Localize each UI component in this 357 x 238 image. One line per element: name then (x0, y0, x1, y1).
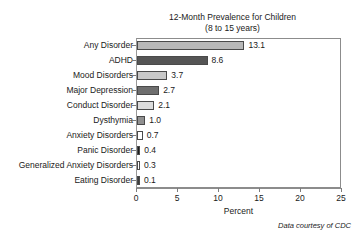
x-axis-tick-label: 0 (124, 193, 148, 203)
bar-value-label: 13.1 (248, 38, 265, 53)
x-axis-tick-label: 20 (288, 193, 312, 203)
y-axis-tick (132, 120, 136, 121)
bar-row: Mood Disorders3.7 (0, 68, 357, 83)
y-axis-tick (132, 165, 136, 166)
x-axis-tick-label: 15 (247, 193, 271, 203)
category-label: Eating Disorder (74, 173, 133, 188)
x-axis-title: Percent (176, 206, 301, 216)
x-axis-tick (259, 188, 260, 192)
category-label: Anxiety Disorders (66, 128, 133, 143)
x-axis-line (136, 188, 341, 189)
bar-value-label: 0.4 (144, 143, 156, 158)
bar (137, 71, 167, 80)
y-axis-tick (132, 135, 136, 136)
y-axis-tick (132, 60, 136, 61)
x-axis-tick-label: 10 (206, 193, 230, 203)
y-axis-tick (132, 90, 136, 91)
bar (137, 146, 140, 155)
category-label: Generalized Anxiety Disorders (19, 158, 133, 173)
bar-row: Panic Disorder0.4 (0, 143, 357, 158)
category-label: Any Disorder (84, 38, 133, 53)
x-axis-tick-label: 25 (329, 193, 353, 203)
chart-figure: 12-Month Prevalence for Children (8 to 1… (0, 0, 357, 238)
bar (137, 161, 140, 170)
bar-value-label: 3.7 (171, 68, 183, 83)
bar-row: Dysthymia1.0 (0, 113, 357, 128)
bar-value-label: 1.0 (149, 113, 161, 128)
bar (137, 86, 159, 95)
bar-value-label: 2.1 (158, 98, 170, 113)
bar-row: Eating Disorder0.1 (0, 173, 357, 188)
y-axis-tick (132, 75, 136, 76)
bar (137, 176, 140, 185)
y-axis-tick (132, 180, 136, 181)
bar-value-label: 0.1 (144, 173, 156, 188)
y-axis-tick (132, 150, 136, 151)
bar-row: Anxiety Disorders0.7 (0, 128, 357, 143)
x-axis-tick (218, 188, 219, 192)
chart-title-block: 12-Month Prevalence for Children (8 to 1… (150, 12, 315, 34)
category-label: ADHD (109, 53, 133, 68)
y-axis-tick (132, 45, 136, 46)
bar (137, 56, 208, 65)
category-label: Mood Disorders (73, 68, 133, 83)
category-label: Dysthymia (93, 113, 133, 128)
bar-value-label: 2.7 (163, 83, 175, 98)
bar-row: Conduct Disorder2.1 (0, 98, 357, 113)
data-source-annotation: Data courtesy of CDC (205, 221, 351, 230)
bar-row: Major Depression2.7 (0, 83, 357, 98)
chart-title: 12-Month Prevalence for Children (150, 12, 315, 23)
x-axis-tick (136, 188, 137, 192)
category-label: Major Depression (66, 83, 133, 98)
bar (137, 101, 154, 110)
bar-value-label: 8.6 (212, 53, 224, 68)
bar (137, 131, 143, 140)
category-label: Panic Disorder (77, 143, 133, 158)
x-axis-tick (300, 188, 301, 192)
bar-value-label: 0.7 (147, 128, 159, 143)
bar (137, 41, 244, 50)
bar-row: Generalized Anxiety Disorders0.3 (0, 158, 357, 173)
bar-value-label: 0.3 (144, 158, 156, 173)
bar (137, 116, 145, 125)
x-axis-tick (177, 188, 178, 192)
chart-subtitle: (8 to 15 years) (150, 23, 315, 34)
x-axis-tick-label: 5 (165, 193, 189, 203)
category-label: Conduct Disorder (67, 98, 133, 113)
y-axis-tick (132, 105, 136, 106)
bar-row: ADHD8.6 (0, 53, 357, 68)
x-axis-tick (341, 188, 342, 192)
bar-row: Any Disorder13.1 (0, 38, 357, 53)
